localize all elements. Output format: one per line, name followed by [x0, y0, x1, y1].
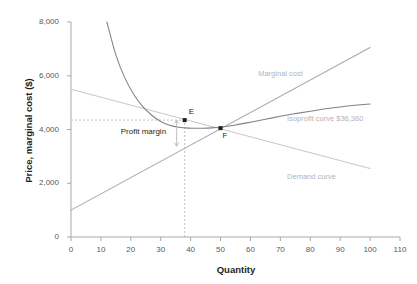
x-tick-label: 80	[295, 245, 325, 254]
y-tick-label: 8,000	[19, 17, 59, 26]
x-tick-label: 0	[56, 245, 86, 254]
series-label-2: Isoprofit curve $36,360	[287, 114, 383, 123]
x-tick-label: 40	[176, 245, 206, 254]
point-label-E: E	[189, 107, 194, 116]
x-tick-label: 110	[385, 245, 415, 254]
y-tick-label: 2,000	[19, 178, 59, 187]
y-tick-label: 4,000	[19, 125, 59, 134]
x-tick-label: 20	[116, 245, 146, 254]
x-tick-label: 30	[146, 245, 176, 254]
point-label-F: F	[223, 131, 228, 140]
y-tick-label: 6,000	[19, 71, 59, 80]
x-tick-label: 50	[206, 245, 236, 254]
data-point-F	[219, 126, 223, 130]
x-tick-label: 90	[325, 245, 355, 254]
series-label-1: Marginal cost	[258, 69, 354, 78]
chart-plot-area	[0, 0, 417, 284]
series-label-0: Demand curve	[287, 172, 383, 181]
x-tick-label: 100	[355, 245, 385, 254]
y-tick-label: 0	[19, 232, 59, 241]
data-point-E	[183, 118, 187, 122]
chart-figure: Price, marginal cost ($) Quantity 02,000…	[0, 0, 417, 284]
guides-group	[71, 120, 185, 237]
annotation-label-profit-margin: Profit margin	[121, 127, 166, 136]
x-tick-label: 70	[265, 245, 295, 254]
axes-group	[67, 22, 400, 241]
x-axis-title: Quantity	[71, 264, 401, 275]
annotations-group	[174, 120, 178, 146]
x-tick-label: 10	[86, 245, 116, 254]
x-tick-label: 60	[235, 245, 265, 254]
